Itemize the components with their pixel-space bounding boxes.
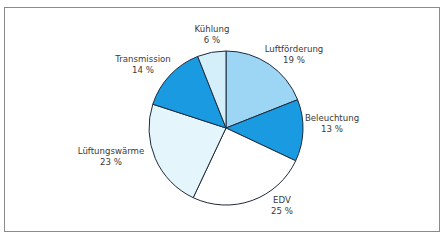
label-transmission: Transmission 14 % xyxy=(115,54,171,76)
label-beleuchtung-name: Beleuchtung xyxy=(305,113,359,124)
label-transmission-name: Transmission xyxy=(115,54,171,65)
label-edv-name: EDV xyxy=(271,195,293,206)
label-transmission-value: 14 % xyxy=(115,65,171,76)
label-edv: EDV 25 % xyxy=(271,195,293,217)
label-lueftungswaerme: Lüftungswärme 23 % xyxy=(78,146,145,168)
label-edv-value: 25 % xyxy=(271,206,293,217)
label-kuehlung-value: 6 % xyxy=(195,35,230,46)
label-lueftungswaerme-value: 23 % xyxy=(78,157,145,168)
label-kuehlung: Kühlung 6 % xyxy=(195,24,230,46)
label-luftfoerderung-name: Luftförderung xyxy=(265,44,324,55)
label-beleuchtung-value: 13 % xyxy=(305,124,359,135)
label-luftfoerderung: Luftförderung 19 % xyxy=(265,44,324,66)
label-kuehlung-name: Kühlung xyxy=(195,24,230,35)
label-lueftungswaerme-name: Lüftungswärme xyxy=(78,146,145,157)
label-luftfoerderung-value: 19 % xyxy=(265,55,324,66)
label-beleuchtung: Beleuchtung 13 % xyxy=(305,113,359,135)
